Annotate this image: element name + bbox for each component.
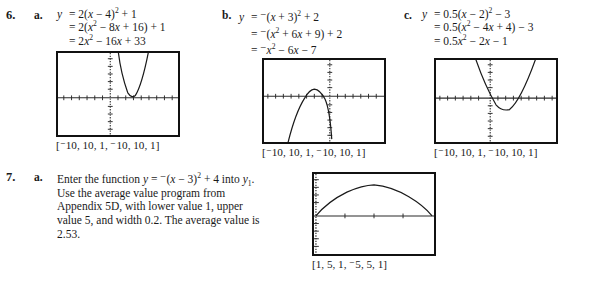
equation-6b-line-3: = −x2 − 6x − 7 [239,41,342,58]
window-label-7a: [1, 5, 1, ⁻5, 5, 1] [312,258,387,271]
part-letter-6b: b. [222,9,231,21]
equation-6b-line-1: y= −(x + 3)2 + 2 [239,8,342,25]
calculator-screen-6b [262,58,386,144]
calculator-screen-7a [312,172,436,256]
graph-6c [436,60,556,142]
window-label-6b: [⁻10, 10, 1, ⁻10, 10, 1] [262,146,365,159]
part-letter-6c: c. [404,9,412,21]
parabola-curve [475,60,537,110]
equation-6a: y= 2(x − 4)2 + 1 = 2(x2 − 8x + 16) + 1 =… [57,8,166,48]
problem-number-6: 6. [6,8,15,23]
parabola-curve [287,89,332,142]
equation-6a-line-2: = 2(x2 − 8x + 16) + 1 [57,21,166,34]
equation-6b-line-2: = −(x2 + 6x + 9) + 2 [239,25,342,42]
equation-6b: y= −(x + 3)2 + 2 = −(x2 + 6x + 9) + 2 = … [239,8,342,58]
part-letter-7a: a. [34,171,43,183]
equation-6a-line-1: y= 2(x − 4)2 + 1 [57,8,166,21]
textbook-answer-page: 6. a. y= 2(x − 4)2 + 1 = 2(x2 − 8x + 16)… [0,0,592,284]
problem-number-7: 7. [6,170,15,185]
window-label-6a: [⁻10, 10, 1, ⁻10, 10, 1] [56,139,159,152]
parabola-curve [118,53,149,97]
equation-6c: y= 0.5(x − 2)2 − 3 = 0.5(x2 − 4x + 4) − … [422,8,533,48]
graph-6b [264,60,384,142]
equation-6a-line-3: = 2x2 − 16x + 33 [57,35,166,48]
problem-7a-text: Enter the function y = −(x − 3)2 + 4 int… [57,170,262,241]
parabola-curve [316,185,432,216]
calculator-screen-6c [434,58,558,144]
part-letter-6a: a. [34,9,43,21]
equation-6c-line-1: y= 0.5(x − 2)2 − 3 [422,8,533,21]
equation-6c-line-2: = 0.5(x2 − 4x + 4) − 3 [422,21,533,34]
graph-6a [58,53,178,135]
calculator-screen-6a [56,51,180,137]
window-label-6c: [⁻10, 10, 1, ⁻10, 10, 1] [434,146,537,159]
equation-6c-line-3: = 0.5x2 − 2x − 1 [422,35,533,48]
graph-7a [314,174,434,254]
